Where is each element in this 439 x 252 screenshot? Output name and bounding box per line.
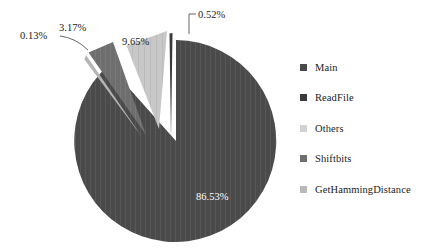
- legend-item-gethammingdistance[interactable]: GetHammingDistance: [300, 174, 436, 205]
- legend-item-others[interactable]: Others: [300, 113, 436, 144]
- slice-value-shiftbits: 3.17%: [59, 22, 86, 33]
- legend-item-readfile[interactable]: ReadFile: [300, 83, 436, 114]
- legend-item-main[interactable]: Main: [300, 52, 436, 83]
- pie-slice-readfile[interactable]: [170, 33, 173, 139]
- legend-swatch-shiftbits: [300, 155, 307, 162]
- chart-legend: Main ReadFile Others Shiftbits GetHammin…: [300, 52, 436, 205]
- slice-value-main: 86.53%: [196, 191, 229, 202]
- legend-label-main: Main: [315, 62, 338, 73]
- legend-label-others: Others: [315, 123, 344, 134]
- legend-item-shiftbits[interactable]: Shiftbits: [300, 144, 436, 175]
- legend-label-readfile: ReadFile: [315, 92, 354, 103]
- legend-swatch-others: [300, 125, 307, 132]
- legend-label-shiftbits: Shiftbits: [315, 153, 352, 164]
- slice-value-others: 9.65%: [122, 36, 149, 47]
- legend-swatch-main: [300, 64, 307, 71]
- legend-swatch-gethammingdistance: [300, 186, 307, 193]
- legend-swatch-readfile: [300, 94, 307, 101]
- leader-line-readfile: [189, 14, 196, 34]
- slice-value-readfile: 0.52%: [198, 9, 225, 20]
- legend-label-gethammingdistance: GetHammingDistance: [315, 184, 411, 195]
- slice-value-gethammingdistance: 0.13%: [20, 30, 47, 41]
- leader-line-gethammingdistance: [60, 36, 88, 50]
- pie-chart-figure: 0.52% 9.65% 3.17% 0.13% 86.53% Main Read…: [0, 0, 439, 252]
